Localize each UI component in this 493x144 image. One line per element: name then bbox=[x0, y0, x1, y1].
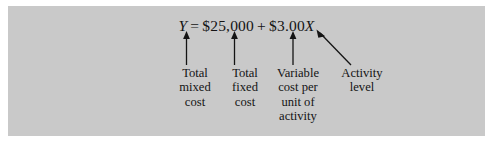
arrow-to-total-mixed-cost bbox=[183, 31, 190, 65]
arrow-to-total-fixed-cost bbox=[231, 31, 238, 65]
arrow-to-activity-level bbox=[317, 30, 352, 66]
callout-label-activity-level: Activity level bbox=[324, 66, 400, 95]
callout-line: activity bbox=[260, 109, 336, 123]
callout-line: level bbox=[324, 80, 400, 94]
callout-line: Activity bbox=[324, 66, 400, 80]
callout-line: unit of bbox=[260, 95, 336, 109]
arrow-to-variable-cost-per-unit bbox=[290, 31, 297, 65]
mixed-cost-equation-figure: Y=$25,000+$3.00X Total mixed cost Total … bbox=[8, 6, 485, 136]
